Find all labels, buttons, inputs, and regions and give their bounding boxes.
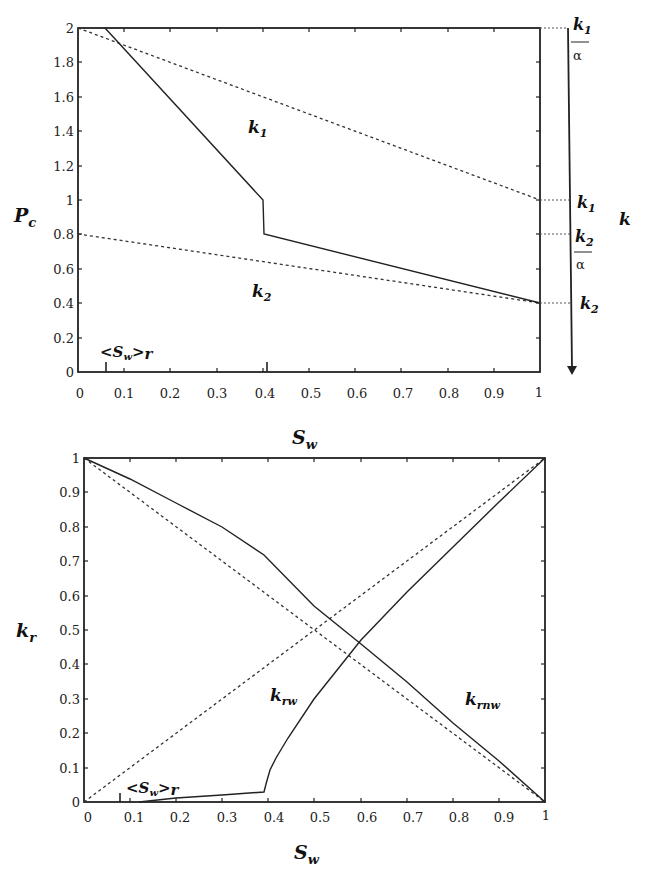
svg-text:0.6: 0.6 [53,262,74,277]
svg-text:1.8: 1.8 [53,55,74,70]
k2-alpha-denominator: α [576,257,585,272]
pc-y-axis-title: Pc [13,204,36,230]
kr-swr-label: <Sw>r [126,779,180,799]
svg-text:0.7: 0.7 [403,810,424,825]
pc-chart: 00.10.2 0.30.40.5 0.60.70.8 0.91 21.81.6… [13,15,631,452]
svg-text:0: 0 [66,365,74,380]
kr-y-axis-title: kr [16,619,37,645]
svg-text:0.1: 0.1 [59,761,80,776]
pc-x-ticks [78,28,540,372]
svg-text:0.3: 0.3 [217,810,238,825]
svg-text:0.8: 0.8 [439,386,460,401]
svg-text:0.4: 0.4 [264,810,285,825]
pc-y-tick-labels: 21.81.6 1.41.21 0.80.60.4 0.20 [53,21,74,380]
k-axis: k1 α k1 k2 α k2 k [540,15,631,375]
svg-text:0.5: 0.5 [301,386,322,401]
svg-text:1: 1 [535,385,543,400]
svg-text:0.7: 0.7 [393,386,414,401]
svg-text:0.3: 0.3 [207,386,228,401]
svg-text:1.4: 1.4 [53,124,74,139]
svg-text:0.9: 0.9 [494,810,515,825]
svg-text:0.5: 0.5 [310,810,331,825]
krnw-label: krnw [465,689,501,712]
pc-k2-label: k2 [252,281,272,304]
k1-marker-label: k1 [577,193,596,215]
svg-text:0.4: 0.4 [255,386,276,401]
k2-marker-label: k2 [580,294,599,316]
kr-y-tick-labels: 10.90.8 0.70.60.5 0.40.30.2 0.10 [59,451,80,810]
pc-swr-label: <Sw>r [100,343,154,363]
svg-text:0.7: 0.7 [59,554,80,569]
pc-plot-frame [78,28,540,372]
krw-curve [139,458,545,802]
k1-alpha-label: k1 [573,15,592,37]
svg-text:0.6: 0.6 [357,810,378,825]
svg-text:1.2: 1.2 [53,159,74,174]
svg-text:0.9: 0.9 [484,386,505,401]
svg-text:0.2: 0.2 [59,726,80,741]
pc-k1-label: k1 [248,117,267,140]
svg-text:0.2: 0.2 [160,386,181,401]
svg-text:0.9: 0.9 [59,485,80,500]
svg-text:0.2: 0.2 [170,810,191,825]
svg-text:1.6: 1.6 [53,90,74,105]
pc-x-tick-labels: 00.10.2 0.30.40.5 0.60.70.8 0.91 [76,385,543,401]
kr-x-tick-labels: 00.10.2 0.30.40.5 0.60.70.8 0.91 [84,808,550,825]
svg-text:0.3: 0.3 [59,692,80,707]
svg-text:1: 1 [72,451,80,466]
svg-text:0: 0 [76,386,84,401]
svg-text:2: 2 [66,21,74,36]
k1-alpha-denominator: α [573,48,582,63]
svg-text:0.4: 0.4 [53,296,74,311]
svg-text:0.6: 0.6 [347,386,368,401]
svg-text:0.2: 0.2 [53,331,74,346]
figure: 00.10.2 0.30.40.5 0.60.70.8 0.91 21.81.6… [0,0,646,869]
svg-text:1: 1 [66,193,74,208]
svg-text:0.4: 0.4 [59,657,80,672]
pc-k2-line [78,234,540,303]
krw-label: krw [270,685,298,708]
k-axis-title: k [619,209,631,229]
kr-x-axis-title: Sw [294,841,320,867]
k-axis-arrow-icon [567,366,577,375]
svg-text:0.8: 0.8 [59,520,80,535]
svg-text:0: 0 [84,810,92,825]
svg-text:0.8: 0.8 [449,810,470,825]
svg-text:1: 1 [542,808,550,823]
svg-text:0.6: 0.6 [59,589,80,604]
k2-alpha-label: k2 [575,227,594,249]
svg-text:0.1: 0.1 [114,386,135,401]
kr-chart: 00.10.2 0.30.40.5 0.60.70.8 0.91 10.90.8… [16,451,550,867]
svg-text:0: 0 [72,795,80,810]
svg-text:0.5: 0.5 [59,623,80,638]
pc-composite-curve [105,28,540,303]
pc-x-axis-title: Sw [292,426,318,452]
svg-text:0.8: 0.8 [53,227,74,242]
svg-text:0.1: 0.1 [124,810,145,825]
pc-k1-line [78,28,540,200]
